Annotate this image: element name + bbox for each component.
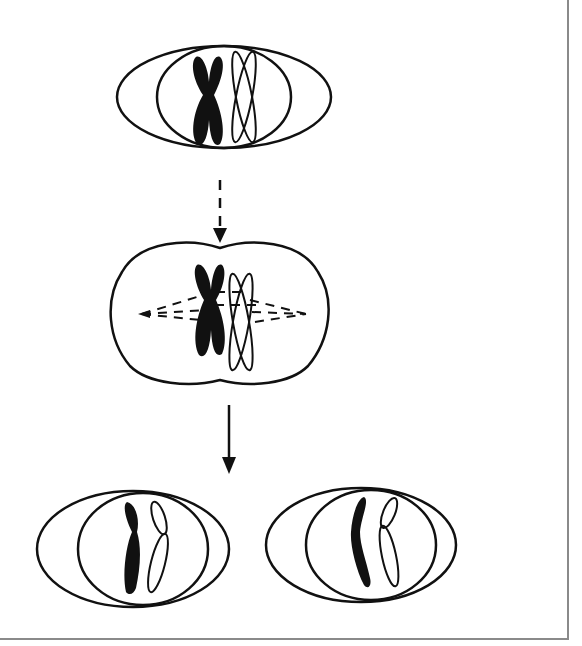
parent-cell — [117, 46, 331, 148]
light-chromatid-icon — [376, 496, 403, 588]
nuclear-membrane — [306, 490, 436, 600]
dividing-cell — [111, 243, 329, 384]
outer-cell-membrane — [117, 46, 331, 148]
light-chromosome-icon — [225, 272, 258, 371]
daughter-cell-right — [266, 488, 456, 602]
dashed-arrow-down-icon — [213, 180, 227, 243]
nuclear-membrane — [157, 46, 291, 148]
light-chromosome-icon — [227, 50, 260, 143]
dark-chromosome-icon — [193, 57, 223, 145]
spindle-pole-left — [138, 310, 150, 318]
dark-chromatid-icon — [124, 502, 140, 594]
spindle-fibers — [142, 292, 306, 322]
dark-chromatid-icon — [351, 497, 371, 587]
arrow-down-icon — [222, 405, 236, 474]
light-chromatid-icon — [144, 500, 172, 594]
daughter-cell-left — [37, 491, 229, 607]
cell-division-diagram — [0, 0, 582, 646]
nuclear-membrane — [78, 493, 208, 605]
dark-chromosome-icon — [195, 265, 225, 357]
